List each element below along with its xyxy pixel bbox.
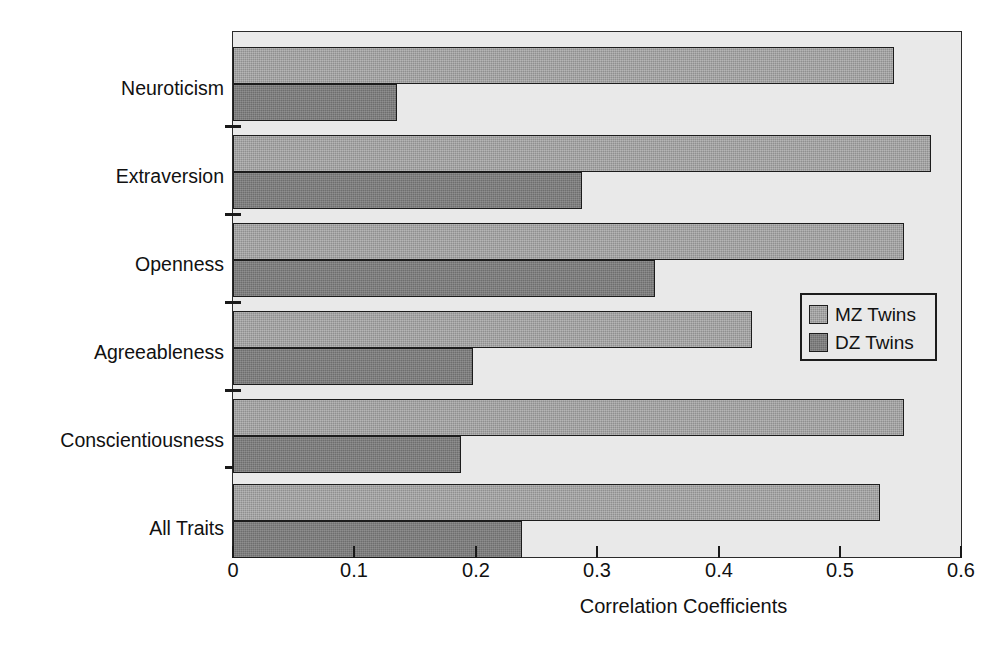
bar-mz-neuroticism	[233, 47, 894, 84]
bar-chart: Neuroticism Extraversion Openness Agreea…	[0, 0, 1007, 646]
x-axis-tick-label: 0.2	[462, 560, 490, 580]
x-axis-tick	[960, 546, 962, 558]
x-axis-tick-label: 0.5	[826, 560, 854, 580]
bar-dz-extraversion	[233, 172, 582, 209]
bar-dz-neuroticism	[233, 84, 397, 121]
y-axis-tick	[225, 213, 241, 216]
x-axis-tick-label: 0.6	[947, 560, 975, 580]
x-axis-tick-label: 0.4	[705, 560, 733, 580]
y-category-label: All Traits	[149, 519, 224, 539]
bar-mz-agreeableness	[233, 311, 752, 348]
legend-swatch-dz-icon	[809, 333, 828, 352]
x-axis-tick	[839, 546, 841, 558]
y-category-label: Conscientiousness	[60, 431, 224, 451]
y-category-label: Agreeableness	[94, 343, 224, 363]
bar-mz-extraversion	[233, 135, 931, 172]
y-category-label: Openness	[135, 255, 224, 275]
x-axis-tick	[718, 546, 720, 558]
x-axis-title-wrapper: Correlation Coefficients	[0, 596, 1007, 616]
x-axis-tick-label: 0	[227, 560, 238, 580]
legend-label-dz: DZ Twins	[835, 333, 914, 352]
y-category-label: Neuroticism	[121, 79, 224, 99]
x-axis-tick	[232, 546, 234, 558]
x-axis-tick	[353, 546, 355, 558]
bar-dz-agreeableness	[233, 348, 473, 385]
y-axis-tick	[225, 389, 241, 392]
bar-mz-all-traits	[233, 484, 880, 521]
legend-item-dz-twins: DZ Twins	[809, 328, 928, 356]
x-axis-tick	[596, 546, 598, 558]
bar-mz-conscientiousness	[233, 399, 904, 436]
legend-item-mz-twins: MZ Twins	[809, 300, 928, 328]
legend-swatch-mz-icon	[809, 305, 828, 324]
y-category-label: Extraversion	[116, 167, 224, 187]
x-axis-title: Correlation Coefficients	[580, 595, 788, 617]
y-axis-tick	[225, 301, 241, 304]
x-axis-tick-label: 0.1	[340, 560, 368, 580]
x-axis-tick-label: 0.3	[583, 560, 611, 580]
legend-label-mz: MZ Twins	[835, 305, 916, 324]
x-axis-tick	[475, 546, 477, 558]
bar-dz-conscientiousness	[233, 436, 461, 473]
bar-dz-openness	[233, 260, 655, 297]
y-axis-tick	[225, 125, 241, 128]
bar-dz-all-traits	[233, 521, 522, 558]
bar-mz-openness	[233, 223, 904, 260]
legend: MZ Twins DZ Twins	[800, 293, 937, 361]
y-axis-category-labels: Neuroticism Extraversion Openness Agreea…	[0, 31, 224, 558]
